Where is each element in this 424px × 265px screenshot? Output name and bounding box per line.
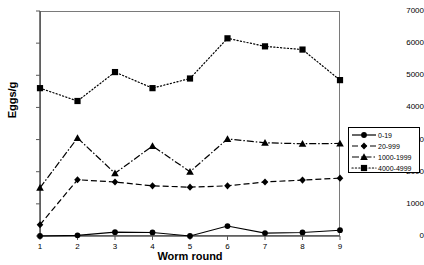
data-point-20-999 [187, 184, 194, 191]
y-tick-label: 1000 [390, 200, 424, 208]
y-tick-label: 0 [390, 232, 424, 240]
legend-swatch-square-icon [351, 163, 377, 173]
data-point-20-999 [262, 178, 269, 185]
data-point-1000-1999 [149, 142, 157, 149]
data-point-0-19 [337, 227, 343, 233]
data-point-4000-4999 [37, 85, 43, 91]
data-point-20-999 [112, 178, 119, 185]
chart-legend: 0-1920-9991000-19994000-4999 [348, 127, 420, 173]
legend-swatch-circle-icon [351, 130, 377, 140]
data-point-20-999 [149, 182, 156, 189]
y-tick-label: 6000 [390, 39, 424, 47]
legend-marker [361, 132, 367, 138]
legend-marker [361, 165, 367, 171]
y-tick-label: 5000 [390, 71, 424, 79]
legend-item-4000-4999[interactable]: 4000-4999 [351, 163, 417, 173]
legend-label: 4000-4999 [377, 165, 411, 172]
data-point-0-19 [262, 230, 268, 236]
data-point-0-19 [37, 233, 43, 239]
legend-swatch-triangle-icon [351, 152, 377, 162]
data-point-4000-4999 [187, 75, 193, 81]
legend-label: 0-19 [377, 132, 392, 139]
y-tick-label: 4000 [390, 103, 424, 111]
data-point-1000-1999 [74, 134, 82, 141]
data-point-20-999 [337, 175, 344, 182]
legend-label: 20-999 [377, 143, 400, 150]
data-point-0-19 [75, 232, 81, 238]
data-point-1000-1999 [224, 135, 232, 142]
y-tick-label: 7000 [390, 7, 424, 15]
data-point-4000-4999 [299, 46, 305, 52]
data-point-0-19 [187, 233, 193, 239]
chart-container: 01000200030004000500060007000 123456789 … [0, 0, 424, 265]
series-line-4000-4999 [40, 38, 340, 101]
data-point-4000-4999 [74, 98, 80, 104]
data-point-0-19 [112, 229, 118, 235]
legend-label: 1000-1999 [377, 154, 411, 161]
data-point-4000-4999 [337, 77, 343, 83]
data-point-0-19 [150, 230, 156, 236]
data-point-20-999 [299, 176, 306, 183]
data-point-4000-4999 [149, 85, 155, 91]
data-point-4000-4999 [262, 43, 268, 49]
data-point-20-999 [224, 182, 231, 189]
data-point-4000-4999 [224, 35, 230, 41]
x-axis-label: Worm round [40, 250, 340, 262]
legend-item-1000-1999[interactable]: 1000-1999 [351, 152, 417, 162]
legend-marker [361, 142, 368, 149]
data-point-0-19 [300, 230, 306, 236]
y-axis-label: Eggs/g [6, 70, 18, 130]
legend-item-20-999[interactable]: 20-999 [351, 141, 417, 151]
data-point-0-19 [225, 223, 231, 229]
legend-item-0-19[interactable]: 0-19 [351, 130, 417, 140]
legend-swatch-diamond-icon [351, 141, 377, 151]
data-point-4000-4999 [112, 69, 118, 75]
